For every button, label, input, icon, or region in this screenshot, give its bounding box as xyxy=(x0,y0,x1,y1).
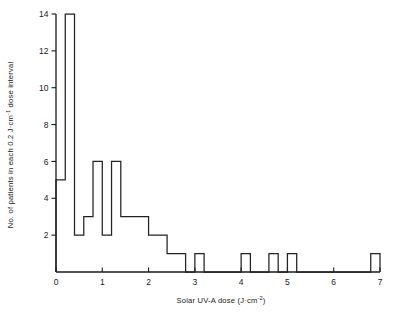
y-tick-label: 14 xyxy=(39,9,49,19)
axes-group xyxy=(56,14,380,272)
x-tick-label: 7 xyxy=(378,277,383,287)
y-tick-label: 12 xyxy=(39,46,49,56)
y-tick-label: 6 xyxy=(44,157,49,167)
y-axis-title: No. of patients in each 0.2 J·cm-1 dose … xyxy=(5,62,15,229)
x-tick-label: 0 xyxy=(54,277,59,287)
x-tick-label: 4 xyxy=(239,277,244,287)
histogram-outline xyxy=(56,14,380,272)
x-tick-label: 5 xyxy=(285,277,290,287)
x-tick-label: 3 xyxy=(192,277,197,287)
y-tick-label: 10 xyxy=(39,83,49,93)
chart-canvas: 2468101214 01234567 No. of patients in e… xyxy=(0,0,399,317)
svg-text:No. of patients in each 0.2 J·: No. of patients in each 0.2 J·cm-1 dose … xyxy=(5,62,15,229)
x-tick-label: 6 xyxy=(331,277,336,287)
histogram-series xyxy=(56,14,380,272)
y-tick-label: 2 xyxy=(44,230,49,240)
x-tick-label: 1 xyxy=(100,277,105,287)
x-tick-label: 2 xyxy=(146,277,151,287)
svg-text:Solar UV-A dose (J·cm-2): Solar UV-A dose (J·cm-2) xyxy=(176,295,265,305)
histogram-figure: 2468101214 01234567 No. of patients in e… xyxy=(0,0,399,317)
y-axis-ticks: 2468101214 xyxy=(39,9,56,240)
y-tick-label: 4 xyxy=(44,193,49,203)
x-axis-ticks: 01234567 xyxy=(54,268,383,288)
y-tick-label: 8 xyxy=(44,120,49,130)
x-axis-title: Solar UV-A dose (J·cm-2) xyxy=(176,295,265,305)
